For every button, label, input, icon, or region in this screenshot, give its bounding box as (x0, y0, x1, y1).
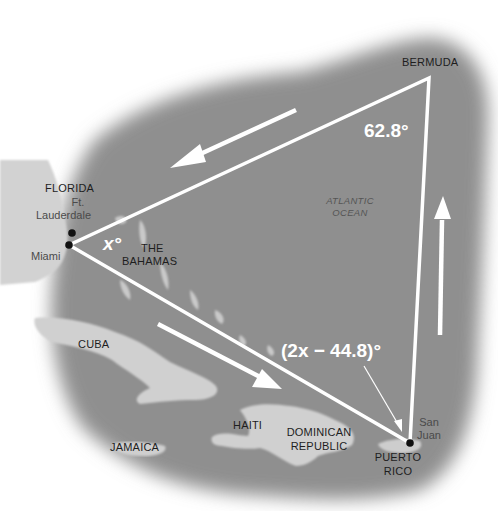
label-ft-lauderdale-line2: Lauderdale (36, 209, 91, 222)
angle-label-miami: x° (103, 233, 121, 255)
label-atlantic: ATLANTIC (320, 196, 380, 207)
label-bahamas-line1: THE (141, 242, 159, 255)
label-bahamas-line2: BAHAMAS (122, 255, 177, 268)
label-san-juan-line1: San (414, 416, 444, 429)
label-cuba: CUBA (78, 338, 109, 351)
label-san-juan-line2: Juan (414, 429, 444, 442)
florida-land (0, 160, 68, 285)
label-dominican-line2: REPUBLIC (281, 440, 357, 453)
label-dominican-line1: DOMINICAN (281, 426, 357, 439)
label-ft-lauderdale-line1: Ft. (58, 196, 98, 209)
label-haiti: HAITI (233, 419, 262, 432)
label-florida: FLORIDA (45, 182, 94, 195)
san-juan-dot (406, 439, 414, 447)
label-bermuda: BERMUDA (402, 56, 458, 69)
ft-lauderdale-dot (68, 229, 76, 237)
label-miami: Miami (31, 250, 60, 263)
label-jamaica: JAMAICA (110, 441, 159, 454)
label-puerto-rico-line2: RICO (374, 465, 422, 478)
angle-label-bermuda: 62.8° (364, 120, 409, 142)
angle-label-puerto-rico: (2x − 44.8)° (281, 340, 381, 362)
label-puerto-rico-line1: PUERTO (374, 451, 422, 464)
miami-dot (65, 241, 73, 249)
label-ocean: OCEAN (320, 208, 380, 219)
